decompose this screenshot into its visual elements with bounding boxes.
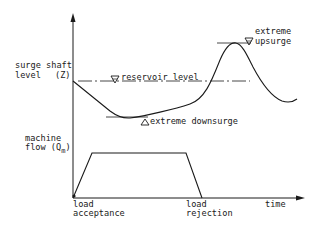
surge-shaft-label-line2: level xyxy=(15,70,41,80)
upsurge-label-line1: extreme xyxy=(255,26,291,36)
surge-shaft-diagram: surge shaft level (Z) reservoir level ex… xyxy=(0,0,315,230)
vertical-axis-arrow-icon xyxy=(71,13,76,22)
upsurge-label-line2: upsurge xyxy=(255,36,291,46)
time-axis-label: time xyxy=(265,199,286,209)
load-acceptance-label-line2: acceptance xyxy=(73,208,125,218)
load-rejection-label-line2: rejection xyxy=(186,208,233,218)
reservoir-level-label: reservoir level xyxy=(121,72,199,82)
downsurge-label: extreme downsurge xyxy=(150,116,238,126)
upsurge-marker-icon xyxy=(245,38,253,45)
reservoir-level-marker-icon xyxy=(111,76,119,83)
time-axis-arrow-icon xyxy=(296,196,305,201)
surge-shaft-symbol: (Z) xyxy=(55,70,71,80)
machine-flow-label-line2: flow (Qm) xyxy=(25,142,71,155)
machine-flow-curve xyxy=(73,153,202,198)
downsurge-marker-icon xyxy=(141,119,149,125)
load-acceptance-point xyxy=(72,194,75,197)
surge-shaft-label-line1: surge shaft xyxy=(15,60,72,70)
